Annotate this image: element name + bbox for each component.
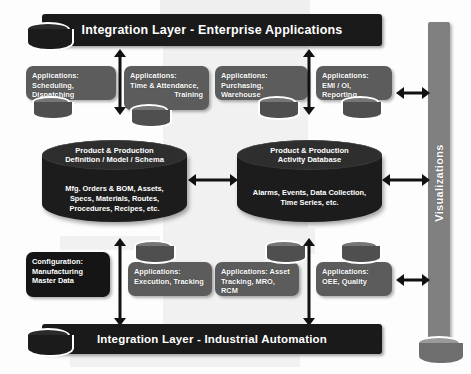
app-box-line1: Applications: xyxy=(32,71,110,81)
arrow-enterprise-right xyxy=(301,49,317,115)
app-box-line1: Applications: xyxy=(221,71,302,81)
automation-layer-database-disc xyxy=(26,328,70,360)
arrow-enterprise-left xyxy=(112,49,128,115)
arrow-automation-left xyxy=(112,238,128,326)
app-box-line3: Training xyxy=(130,90,203,100)
database-title-line1: Product & Production xyxy=(75,146,153,155)
integration-layer-automation-label: Integration Layer - Industrial Automatio… xyxy=(97,333,327,345)
app-box-line2: Time & Attendance, xyxy=(130,81,203,91)
database-title-line1: Product & Production xyxy=(270,146,348,155)
database-product-production-activity[interactable]: Product & Production Activity Database A… xyxy=(237,140,382,235)
arrow-to-visualizations-middle xyxy=(382,172,430,188)
config-box-line3: Master Data xyxy=(32,276,104,286)
database-body-line1: Mfg. Orders & BOM, Assets, xyxy=(65,184,163,193)
app-database-cylinder xyxy=(340,240,378,264)
app-box-line2: Tracking, MRO, RCM xyxy=(221,277,293,296)
app-box-line1: Applications: xyxy=(130,71,203,81)
database-title-line2: Activity Database xyxy=(278,155,341,164)
app-box-line2: OEE, Quality xyxy=(322,277,386,287)
config-box-line2: Manufacturing xyxy=(32,267,104,277)
app-box-asset-tracking-mro-rcm[interactable]: Applications: Asset Tracking, MRO, RCM xyxy=(215,262,299,296)
integration-layer-enterprise-label: Integration Layer - Enterprise Applicati… xyxy=(82,23,343,37)
integration-layer-enterprise-bar[interactable]: Integration Layer - Enterprise Applicati… xyxy=(42,14,382,46)
database-body-line2: Time Series, etc. xyxy=(280,198,338,207)
visualizations-database-disc xyxy=(417,336,461,368)
arrow-to-visualizations-top xyxy=(396,85,430,101)
database-body-line1: Alarms, Events, Data Collection, xyxy=(253,188,366,197)
integration-layer-automation-bar[interactable]: Integration Layer - Industrial Automatio… xyxy=(42,324,382,354)
database-product-production-definition[interactable]: Product & Production Definition / Model … xyxy=(42,140,187,235)
app-database-cylinder xyxy=(32,96,70,120)
config-box-manufacturing-master-data[interactable]: Configuration: Manufacturing Master Data xyxy=(26,252,110,297)
visualizations-bar[interactable]: Visualizations xyxy=(428,22,450,344)
config-box-line1: Configuration: xyxy=(32,257,104,267)
visualizations-label: Visualizations xyxy=(433,144,445,221)
database-body-line2: Specs, Materials, Routes, xyxy=(70,194,159,203)
app-database-cylinder xyxy=(258,96,296,120)
app-box-line1: Applications: Asset xyxy=(221,267,293,277)
app-box-oee-quality[interactable]: Applications: OEE, Quality xyxy=(316,262,392,296)
database-title-line2: Definition / Model / Schema xyxy=(65,155,164,164)
watermark-blotch xyxy=(70,355,300,367)
app-database-cylinder xyxy=(265,240,303,264)
app-box-line1: Applications: xyxy=(322,71,386,81)
database-body-line3: Procedures, Recipes, etc. xyxy=(70,204,160,213)
app-box-scheduling-dispatching[interactable]: Applications: Scheduling, Dispatching xyxy=(26,66,116,100)
app-box-line1: Applications: xyxy=(134,267,206,277)
arrow-between-databases xyxy=(188,172,238,188)
app-database-cylinder xyxy=(130,104,168,128)
app-database-cylinder xyxy=(341,96,379,120)
app-box-execution-tracking[interactable]: Applications: Execution, Tracking xyxy=(128,262,212,296)
app-box-purchasing-warehouse[interactable]: Applications: Purchasing, Warehouse xyxy=(215,66,308,100)
diagram-canvas: Integration Layer - Enterprise Applicati… xyxy=(0,0,471,374)
app-box-line2: Execution, Tracking xyxy=(134,277,206,287)
arrow-to-visualizations-bottom xyxy=(396,272,430,288)
app-box-emi-oi-reporting[interactable]: Applications: EMI / OI, Reporting xyxy=(316,66,392,100)
app-box-line1: Applications: xyxy=(322,267,386,277)
enterprise-layer-database-disc xyxy=(26,22,70,54)
app-database-cylinder xyxy=(134,240,172,264)
